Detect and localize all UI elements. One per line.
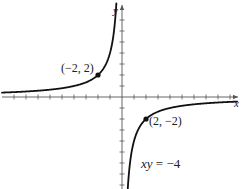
y-axis-arrow-icon (120, 5, 124, 10)
curve-branch (128, 102, 238, 189)
equation-label: xy = −4 (140, 156, 181, 171)
y-axis-label: y (112, 4, 118, 16)
x-axis-label: x (233, 97, 239, 109)
data-point (143, 116, 148, 121)
point-label-neg2-2: (−2, 2) (61, 61, 94, 75)
point-label-2-neg2: (2, −2) (149, 114, 182, 128)
equation-value: = −4 (153, 156, 181, 171)
axes (2, 5, 238, 189)
hyperbola-graph: y x (−2, 2) (2, −2) xy = −4 (0, 0, 242, 189)
data-point (95, 72, 100, 77)
equation-variables: xy (140, 156, 153, 171)
curve-branch (2, 3, 116, 92)
